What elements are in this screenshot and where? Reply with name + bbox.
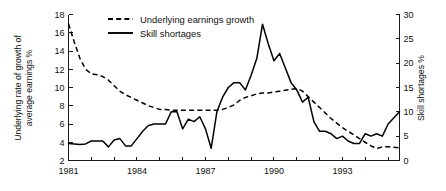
series-layer [69,24,400,149]
left-axis-title-line1: Underlying rate of growth of [13,35,23,141]
left-tick-label: 18 [54,10,64,20]
right-tick-label: 5 [404,131,409,141]
legend-label-skill-shortages: Skill shortages [140,28,201,39]
x-axis-ticks: 19811984198719901993 [58,157,388,176]
right-tick-label: 20 [404,58,414,68]
x-tick-label: 1984 [127,166,147,176]
legend: Underlying earnings growth Skill shortag… [108,14,254,39]
left-tick-label: 4 [59,138,64,148]
x-tick-label: 1990 [264,166,284,176]
left-tick-label: 16 [54,28,64,38]
right-axis-title: Skill shortages % [416,55,426,121]
x-tick-label: 1981 [58,166,78,176]
series-line-skill-shortages [69,24,400,148]
left-tick-label: 8 [59,101,64,111]
left-tick-label: 6 [59,119,64,129]
left-axis-ticks: 24681012141618 [54,10,72,166]
dual-axis-line-chart: Underlying rate of growth of average ear… [0,0,446,191]
x-tick-label: 1993 [332,166,352,176]
right-axis-ticks: 051015202530 [396,10,414,166]
series-line-underlying-earnings-growth [69,24,400,149]
legend-label-underlying-earnings-growth: Underlying earnings growth [140,14,254,25]
left-axis-title-line2: average earnings % [24,49,34,126]
left-axis-title-group: Underlying rate of growth of average ear… [13,35,34,141]
left-tick-label: 10 [54,83,64,93]
right-axis-title-group: Skill shortages % [416,55,426,121]
left-tick-label: 12 [54,65,64,75]
chart-figure: Underlying rate of growth of average ear… [0,0,446,191]
right-tick-label: 15 [404,83,414,93]
left-tick-label: 2 [59,156,64,166]
x-tick-label: 1987 [195,166,215,176]
right-tick-label: 10 [404,107,414,117]
right-tick-label: 0 [404,156,409,166]
right-tick-label: 25 [404,34,414,44]
right-tick-label: 30 [404,10,414,20]
left-tick-label: 14 [54,46,64,56]
